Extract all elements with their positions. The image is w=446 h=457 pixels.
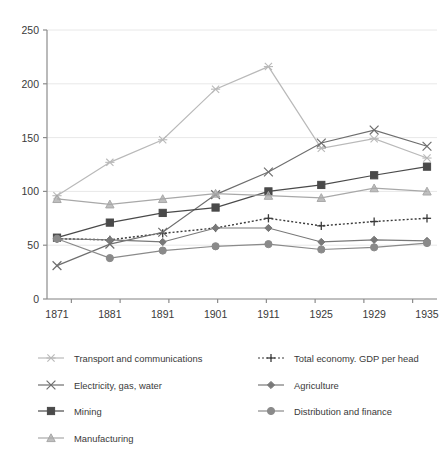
chart-container: 050100150200250 187118811891190119111925… bbox=[0, 0, 446, 457]
x-tick-label: 1925 bbox=[310, 308, 334, 320]
y-tick-label: 250 bbox=[21, 24, 39, 36]
y-tick-label: 50 bbox=[27, 239, 39, 251]
data-point-square bbox=[106, 219, 113, 226]
data-point-circle bbox=[318, 246, 325, 253]
data-point-circle bbox=[53, 235, 60, 242]
x-tick-label: 1871 bbox=[45, 308, 69, 320]
legend-label: Manufacturing bbox=[74, 433, 133, 444]
x-tick-label: 1891 bbox=[151, 308, 175, 320]
x-tick-label: 1929 bbox=[362, 308, 386, 320]
x-tick-label: 1881 bbox=[98, 308, 122, 320]
legend-label: Distribution and finance bbox=[294, 406, 392, 417]
data-point-square bbox=[371, 172, 378, 179]
y-tick-label: 100 bbox=[21, 185, 39, 197]
x-tick-label: 1901 bbox=[204, 308, 228, 320]
data-point-circle bbox=[423, 239, 430, 246]
legend-label: Total economy. GDP per head bbox=[294, 353, 419, 364]
legend-label: Transport and communications bbox=[74, 353, 203, 364]
data-point-square bbox=[212, 204, 219, 211]
data-point-square bbox=[47, 407, 54, 414]
x-tick-label: 1935 bbox=[415, 308, 439, 320]
data-point-square bbox=[159, 209, 166, 216]
x-tick-label: 1911 bbox=[257, 308, 280, 320]
data-point-circle bbox=[106, 255, 113, 262]
y-tick-label: 150 bbox=[21, 132, 39, 144]
legend-label: Mining bbox=[74, 406, 102, 417]
data-point-circle bbox=[371, 244, 378, 251]
data-point-circle bbox=[212, 243, 219, 250]
data-point-square bbox=[318, 181, 325, 188]
data-point-circle bbox=[265, 241, 272, 248]
line-chart: 050100150200250 187118811891190119111925… bbox=[0, 0, 446, 457]
legend-label: Agriculture bbox=[294, 380, 339, 391]
data-point-circle bbox=[159, 247, 166, 254]
legend-label: Electricity, gas, water bbox=[74, 380, 162, 391]
data-point-circle bbox=[267, 407, 274, 414]
y-tick-label: 200 bbox=[21, 78, 39, 90]
data-point-square bbox=[423, 163, 430, 170]
y-tick-label: 0 bbox=[33, 293, 39, 305]
